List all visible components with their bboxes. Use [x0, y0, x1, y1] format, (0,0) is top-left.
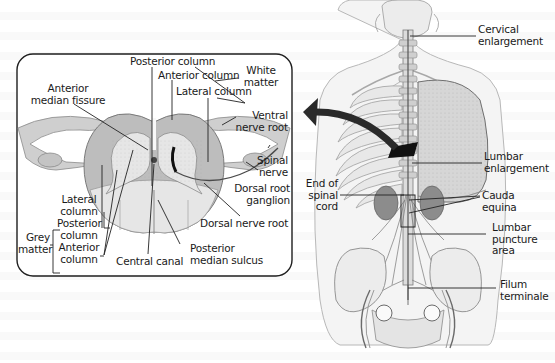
label-posterior-column-line1: Posterior: [57, 218, 101, 230]
label-lumbar-enl-line2: enlargement: [484, 163, 549, 175]
label-drg-line2: ganglion: [228, 195, 290, 207]
label-end-of-spinal-cord: End of spinal cord: [298, 178, 338, 213]
label-drg-line1: Dorsal root: [228, 183, 290, 195]
label-cauda-equina: Cauda equina: [482, 190, 517, 213]
label-white-matter-line1: White: [241, 65, 281, 77]
label-amf-line2: median fissure: [28, 95, 108, 107]
label-grey-matter: Grey matter: [18, 232, 50, 255]
label-cauda-line2: equina: [482, 202, 517, 214]
label-lateral-column-line2: column: [57, 206, 101, 218]
label-lumbar-enl-line1: Lumbar: [484, 151, 549, 163]
label-posterior-column-line2: column: [57, 230, 101, 242]
label-anterior-column-line1: Anterior: [57, 242, 101, 254]
label-spinal-nerve-line1: Spinal: [250, 155, 288, 167]
label-cervical-enlargement: Cervical enlargement: [478, 24, 543, 47]
label-cauda-line1: Cauda: [482, 190, 517, 202]
label-cervical-line2: enlargement: [478, 36, 543, 48]
label-filum-line1: Filum: [500, 279, 549, 291]
label-dorsal-nerve-root: Dorsal nerve root: [200, 218, 288, 230]
label-vnr-line1: Ventral: [232, 110, 288, 122]
label-filum-line2: terminale: [500, 291, 549, 303]
label-amf-line1: Anterior: [28, 83, 108, 95]
label-lateral-column: Lateral column: [57, 194, 101, 217]
label-white-matter-line2: matter: [241, 77, 281, 89]
label-pms-line1: Posterior: [190, 243, 263, 255]
label-anterior-column-top: Anterior column: [158, 70, 239, 82]
body-figure: [303, 0, 506, 348]
label-lp-line1: Lumbar: [492, 222, 537, 234]
label-vnr-line2: nerve root: [232, 122, 288, 134]
label-anterior-column: Anterior column: [57, 242, 101, 265]
label-posterior-column: Posterior column: [57, 218, 101, 241]
label-lp-line3: area: [492, 245, 537, 257]
label-spinal-nerve: Spinal nerve: [250, 155, 288, 178]
label-ventral-nerve-root: Ventral nerve root: [232, 110, 288, 133]
label-end-line3: cord: [298, 201, 338, 213]
label-lumbar-puncture-area: Lumbar puncture area: [492, 222, 537, 257]
label-anterior-median-fissure: Anterior median fissure: [28, 83, 108, 106]
label-grey-matter-line2: matter: [18, 244, 50, 256]
label-spinal-nerve-line2: nerve: [250, 167, 288, 179]
label-anterior-column-line2: column: [57, 254, 101, 266]
label-end-line1: End of: [298, 178, 338, 190]
label-posterior-column-top: Posterior column: [130, 56, 215, 68]
label-pms-line2: median sulcus: [190, 255, 263, 267]
label-white-matter: White matter: [241, 65, 281, 88]
label-dorsal-root-ganglion: Dorsal root ganglion: [228, 183, 290, 206]
label-central-canal: Central canal: [116, 256, 183, 268]
label-grey-matter-line1: Grey: [18, 232, 50, 244]
label-lateral-column-line1: Lateral: [57, 194, 101, 206]
label-posterior-median-sulcus: Posterior median sulcus: [190, 243, 263, 266]
label-lumbar-enlargement: Lumbar enlargement: [484, 151, 549, 174]
kidney-right: [420, 186, 444, 220]
label-cervical-line1: Cervical: [478, 24, 543, 36]
label-filum-terminale: Filum terminale: [500, 279, 549, 302]
